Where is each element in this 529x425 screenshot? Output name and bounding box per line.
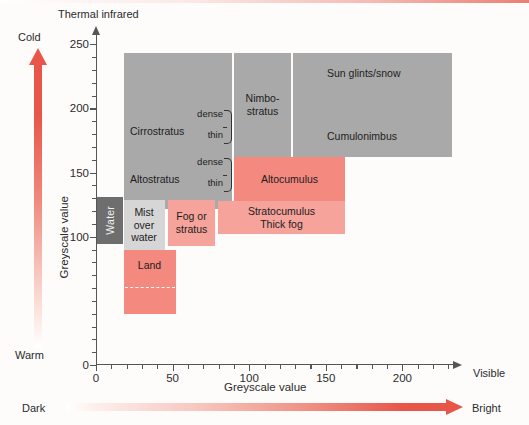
region-label-stratocumulus-line2: Thick fog [248,218,315,231]
cirrostratus-brace-icon [224,110,232,144]
x-tick-0 [96,365,97,371]
y-tick-50 [92,301,96,302]
region-label-fog-line2: stratus [176,223,208,236]
figure-root: Thermal infrared Cold Warm Greyscale val… [0,0,529,425]
y-tick-80 [92,262,96,263]
warm-label: Warm [15,349,44,361]
x-tick-130 [295,365,296,369]
altostratus-brace-icon [224,158,232,192]
region-label-mist-wrap: Mist over water [131,206,157,244]
y-tick-190 [92,121,96,122]
region-label-mist-line3: water [131,231,157,244]
y-tick-240 [92,57,96,58]
y-tick-180 [92,134,96,135]
x-tick-40 [157,365,158,369]
cirrostratus-thin-label: thin [208,129,223,140]
y-tick-130 [92,198,96,199]
region-label-altocumulus: Altocumulus [261,173,318,186]
y-tick-120 [92,211,96,212]
brightness-arrow-shaft [66,403,448,411]
x-tick-30 [142,365,143,369]
y-tick-220 [92,83,96,84]
region-label-water: Water [104,206,117,235]
x-tick-190 [387,365,388,369]
x-axis-arrow [453,361,462,369]
y-tick-10 [92,352,96,353]
x-tick-140 [310,365,311,369]
region-label-nimbostratus-wrap: Nimbo- stratus [246,92,280,118]
y-tick-250 [90,44,96,45]
y-tick-170 [92,147,96,148]
y-tick-40 [92,314,96,315]
x-tick-10 [111,365,112,369]
temperature-arrow-head [29,48,47,65]
x-axis-title: Greyscale value [224,381,306,393]
region-altocumulus[interactable]: Altocumulus [234,157,345,202]
y-tick-30 [92,327,96,328]
x-tick-70 [203,365,204,369]
page-edge-gradient [0,0,529,3]
divider-nimbostratus-left [232,53,234,157]
altostratus-thin-label: thin [208,177,223,188]
temperature-gradient-arrow [29,48,47,348]
x-tick-200 [402,365,403,371]
cirrostratus-dense-label: dense [197,108,223,119]
region-land[interactable]: Land [124,250,176,314]
region-nimbostratus[interactable]: Nimbo- stratus [234,53,291,157]
region-label-altostratus: Altostratus [130,173,180,186]
y-tick-100 [90,237,96,238]
thermal-infrared-label: Thermal infrared [58,8,139,20]
y-tick-70 [92,275,96,276]
x-tick-220 [433,365,434,369]
x-tick-label-50: 50 [166,372,179,384]
y-axis-title: Greyscale value [58,196,70,278]
dark-label: Dark [22,402,45,414]
x-tick-60 [188,365,189,369]
x-tick-230 [448,365,449,369]
region-mist-over-water[interactable]: Mist over water [124,200,165,250]
y-tick-230 [92,70,96,71]
x-tick-120 [280,365,281,369]
visible-axis-end-label: Visible [473,367,505,379]
land-subdivision-dashed-line [125,287,175,288]
brightness-gradient-arrow [66,399,466,415]
x-tick-50 [173,365,174,371]
region-stratocumulus-thickfog[interactable]: Stratocumulus Thick fog [218,201,345,234]
y-tick-60 [92,288,96,289]
x-tick-90 [234,365,235,369]
altostratus-dense-label: dense [197,156,223,167]
region-label-mist-line2: over [131,219,157,232]
x-tick-170 [356,365,357,369]
y-tick-20 [92,339,96,340]
x-tick-label-150: 150 [316,372,335,384]
x-tick-160 [341,365,342,369]
temperature-arrow-shaft [34,64,42,348]
y-tick-210 [92,96,96,97]
plot-area: 0100150200250 050100150200 Cirrostratus … [96,34,456,365]
x-tick-label-200: 200 [393,372,412,384]
region-label-cirrostratus: Cirrostratus [130,125,184,138]
region-label-fog-wrap: Fog or stratus [176,210,208,236]
altostratus-density-annotation: dense thin [178,158,232,190]
region-label-mist-line1: Mist [131,206,157,219]
x-tick-110 [265,365,266,369]
brightness-arrow-head [446,399,463,415]
y-tick-200 [90,108,96,109]
y-tick-label-200: 200 [70,102,89,114]
y-tick-110 [92,224,96,225]
region-water[interactable]: Water [97,197,123,244]
region-label-nimbostratus-line2: stratus [246,105,280,118]
y-tick-140 [92,185,96,186]
region-label-stratocumulus-wrap: Stratocumulus Thick fog [248,205,315,231]
y-tick-label-150: 150 [70,167,89,179]
y-tick-90 [92,250,96,251]
region-label-nimbostratus-line1: Nimbo- [246,92,280,105]
region-fog-or-stratus[interactable]: Fog or stratus [168,200,215,246]
y-tick-160 [92,160,96,161]
cirrostratus-density-annotation: dense thin [178,110,232,142]
x-tick-180 [372,365,373,369]
x-tick-80 [219,365,220,369]
x-tick-20 [127,365,128,369]
y-tick-150 [90,173,96,174]
x-tick-150 [326,365,327,371]
